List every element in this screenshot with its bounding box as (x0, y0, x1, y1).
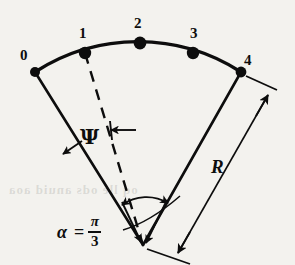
alpha-symbol: α (57, 223, 67, 241)
node-dot-1 (79, 47, 91, 59)
alpha-angle-arc (122, 197, 168, 205)
psi-tick-dashed-side (110, 121, 112, 140)
node-dot-3 (187, 47, 199, 59)
fraction-denominator: 3 (89, 234, 101, 250)
node-label-3: 3 (190, 26, 198, 41)
psi-angle-label: Ψ (80, 126, 99, 147)
node-dot-2 (134, 37, 147, 50)
equals-sign: = (74, 223, 84, 241)
alpha-leader-right (146, 200, 167, 243)
node-label-1: 1 (79, 26, 87, 41)
r-extension-tick-bottom (147, 249, 190, 264)
sector-diagram-svg (0, 0, 295, 265)
fraction-numerator: π (89, 214, 101, 230)
r-extension-tick-top (246, 76, 277, 90)
node-label-2: 2 (134, 16, 142, 31)
node-dot-0 (30, 67, 40, 77)
node-label-4: 4 (244, 53, 252, 68)
r-arrow-lower (178, 232, 190, 253)
alpha-equation: α = π 3 (57, 214, 101, 250)
node-label-0: 0 (20, 48, 28, 63)
pi-over-three-fraction: π 3 (88, 214, 101, 250)
node-dot-4 (236, 67, 247, 78)
r-arrow-upper (256, 95, 268, 116)
radius-label: R (211, 157, 224, 176)
figure-container: oq lle ods anuid aoa (0, 0, 295, 265)
